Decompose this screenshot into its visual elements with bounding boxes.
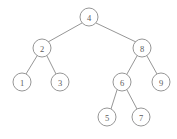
tree-node-5: 5: [98, 108, 116, 126]
tree-node-label: 1: [20, 78, 24, 88]
tree-node-9: 9: [152, 73, 170, 91]
tree-node-label: 7: [139, 113, 143, 123]
tree-node-7: 7: [132, 108, 150, 126]
tree-node-8: 8: [133, 39, 151, 57]
tree-node-label: 2: [40, 44, 44, 54]
tree-node-2: 2: [33, 39, 51, 57]
tree-edge-n8-n6: [127, 56, 137, 74]
tree-node-1: 1: [13, 73, 31, 91]
tree-edge-n4-n2: [48, 23, 82, 42]
tree-edge-n4-n8: [96, 23, 136, 42]
tree-edge-n8-n9: [147, 56, 157, 74]
tree-node-3: 3: [51, 73, 69, 91]
tree-node-label: 5: [105, 113, 109, 123]
tree-node-label: 9: [159, 78, 163, 88]
tree-edge-n6-n7: [127, 90, 137, 109]
tree-node-label: 8: [140, 44, 144, 54]
binary-search-tree-figure: 428136957: [0, 0, 177, 139]
tree-edges-group: [26, 23, 157, 109]
tree-edge-n2-n3: [47, 56, 56, 74]
tree-canvas: 428136957: [0, 0, 177, 139]
tree-edge-n2-n1: [26, 56, 37, 74]
tree-edge-n6-n5: [111, 90, 117, 109]
tree-node-label: 3: [58, 78, 62, 88]
tree-nodes-group: 428136957: [13, 8, 170, 126]
tree-node-label: 6: [120, 78, 124, 88]
tree-node-4: 4: [80, 8, 98, 26]
tree-node-6: 6: [113, 73, 131, 91]
